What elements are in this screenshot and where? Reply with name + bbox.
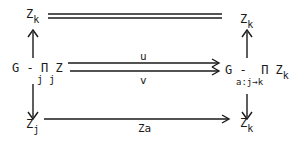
- node-base: Z: [55, 61, 62, 75]
- node-mid-right: G - Π Zk: [225, 64, 289, 76]
- node-subscript: j: [33, 124, 39, 135]
- node-bottom-right: Zk: [240, 117, 253, 129]
- node-mid-left-subscripts: j j: [37, 75, 55, 85]
- node-mid-right-product-subscript: a:j→k: [236, 78, 263, 87]
- node-top-left: Zk: [26, 8, 39, 20]
- node-subscript: k: [247, 123, 253, 134]
- arrow-label-u: u: [140, 51, 147, 62]
- node-top-right: Zk: [240, 13, 253, 25]
- node-mid-left: G - Π Z: [12, 62, 63, 74]
- node-subscript: k: [283, 70, 289, 81]
- arrow-label-za: Za: [138, 123, 151, 134]
- node-base: Z: [276, 63, 283, 77]
- arrow-label-v: v: [140, 75, 147, 86]
- node-bottom-left: Zj: [26, 118, 39, 130]
- node-subscript: j: [49, 74, 55, 85]
- node-prefix: G -: [225, 63, 254, 77]
- node-subscript: k: [33, 14, 39, 25]
- node-subscript: k: [247, 19, 253, 30]
- product-subscript: a:j→k: [236, 77, 263, 87]
- node-prefix: G -: [12, 61, 41, 75]
